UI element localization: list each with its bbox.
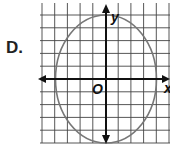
axes bbox=[38, 4, 170, 144]
ellipse-graph: y x O bbox=[0, 0, 170, 145]
x-axis-label: x bbox=[163, 80, 170, 96]
origin-label: O bbox=[92, 81, 103, 97]
y-axis-label: y bbox=[110, 9, 120, 25]
